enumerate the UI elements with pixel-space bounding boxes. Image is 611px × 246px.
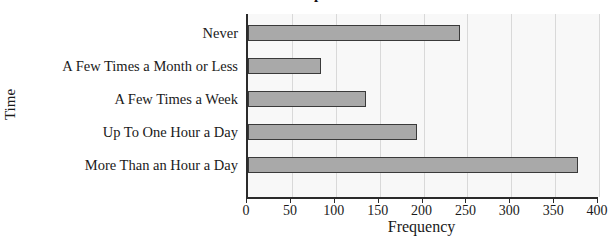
bar-row [248, 149, 599, 182]
gridline [599, 14, 600, 197]
x-axis-tick-label: 50 [283, 203, 297, 219]
y-axis-tick-label: Never [203, 17, 238, 50]
bar-row [248, 83, 599, 116]
bars-layer [248, 14, 599, 197]
bar [248, 58, 321, 74]
x-axis-tick-label: 0 [243, 203, 250, 219]
y-axis-tick-labels: NeverA Few Times a Month or LessA Few Ti… [0, 14, 242, 197]
bar-chart: Time Spent Time NeverA Few Times a Month… [0, 0, 611, 246]
bar-row [248, 116, 599, 149]
y-axis-tick-label: More Than an Hour a Day [85, 149, 238, 182]
bar [248, 124, 417, 140]
plot-area [246, 14, 599, 197]
bar-row [248, 17, 599, 50]
chart-title: Time Spent [0, 0, 611, 6]
y-axis-tick-label: Up To One Hour a Day [103, 116, 238, 149]
y-axis-tick-label: A Few Times a Week [115, 83, 238, 116]
y-axis-tick-label: A Few Times a Month or Less [62, 50, 238, 83]
bar [248, 157, 578, 173]
bar [248, 25, 460, 41]
bar [248, 91, 366, 107]
x-axis-tick-label: 300 [499, 203, 520, 219]
x-axis-tick-label: 400 [587, 203, 608, 219]
x-axis-tick-label: 100 [323, 203, 344, 219]
x-axis-tick-label: 350 [543, 203, 564, 219]
bar-row [248, 50, 599, 83]
x-axis-tick-label: 150 [367, 203, 388, 219]
x-axis-tick-label: 200 [411, 203, 432, 219]
x-axis-tick-label: 250 [455, 203, 476, 219]
x-axis-title: Frequency [246, 218, 597, 236]
